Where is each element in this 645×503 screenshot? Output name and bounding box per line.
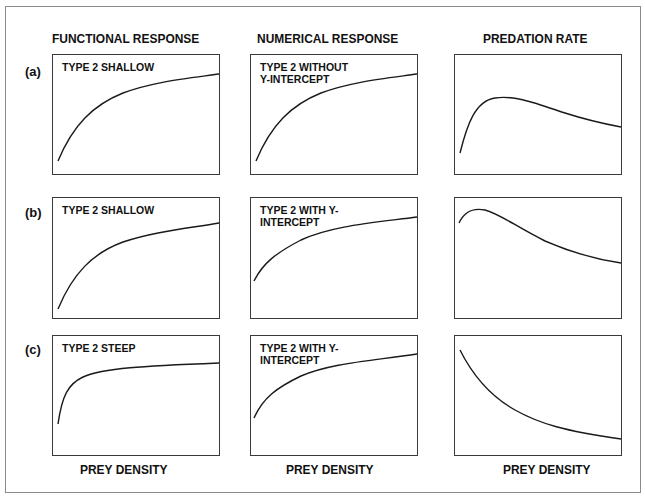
x-axis-label-functional: PREY DENSITY	[80, 462, 168, 477]
row-label-c: (c)	[25, 342, 41, 357]
panel-label: TYPE 2 WITH Y- INTERCEPT	[260, 204, 339, 228]
panel-label: TYPE 2 WITH Y- INTERCEPT	[260, 342, 339, 366]
curve-a-functional	[53, 55, 221, 176]
x-axis-label-predation: PREY DENSITY	[503, 462, 591, 477]
panel-label: TYPE 2 SHALLOW	[62, 204, 154, 216]
panel-a-functional-response: TYPE 2 SHALLOW	[52, 54, 220, 175]
panel-a-predation-rate	[454, 54, 622, 175]
panel-label: TYPE 2 STEEP	[62, 342, 136, 354]
panel-label: TYPE 2 WITHOUT Y-INTERCEPT	[260, 61, 348, 85]
panel-c-predation-rate	[454, 335, 622, 456]
panel-label: TYPE 2 SHALLOW	[62, 61, 154, 73]
panel-c-numerical-response: TYPE 2 WITH Y- INTERCEPT	[250, 335, 418, 456]
panel-b-functional-response: TYPE 2 SHALLOW	[52, 197, 220, 319]
column-title-numerical: NUMERICAL RESPONSE	[257, 31, 398, 46]
row-label-b: (b)	[25, 205, 42, 220]
curve-c-predation	[455, 336, 623, 457]
x-axis-label-numerical: PREY DENSITY	[286, 462, 374, 477]
panel-b-predation-rate	[454, 197, 622, 319]
column-title-functional: FUNCTIONAL RESPONSE	[52, 31, 199, 46]
panel-a-numerical-response: TYPE 2 WITHOUT Y-INTERCEPT	[250, 54, 418, 175]
curve-a-predation	[455, 55, 623, 176]
column-title-predation: PREDATION RATE	[483, 31, 588, 46]
curve-b-functional	[53, 198, 221, 320]
curve-c-functional	[53, 336, 221, 457]
panel-c-functional-response: TYPE 2 STEEP	[52, 335, 220, 456]
row-label-a: (a)	[25, 64, 41, 79]
panel-b-numerical-response: TYPE 2 WITH Y- INTERCEPT	[250, 197, 418, 319]
curve-b-predation	[455, 198, 623, 320]
